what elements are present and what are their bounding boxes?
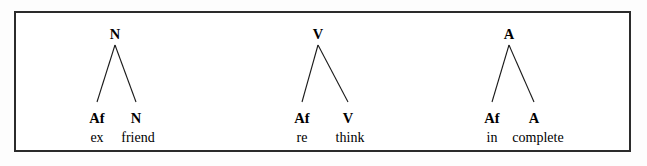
branch-right bbox=[509, 45, 534, 102]
branch-left bbox=[492, 45, 509, 102]
tree-adjective-left-word: in bbox=[487, 131, 498, 145]
tree-noun-right-category: N bbox=[131, 111, 142, 126]
tree-verb-root-label: V bbox=[313, 27, 324, 42]
figure-canvas: N Af ex N friend V Af re V think A Af bbox=[0, 0, 647, 166]
tree-noun-root-label: N bbox=[110, 27, 121, 42]
branch-right bbox=[115, 45, 136, 102]
branch-left bbox=[97, 45, 115, 102]
branch-left bbox=[302, 45, 318, 102]
tree-verb: V Af re V think bbox=[219, 13, 419, 154]
tree-adjective-right-category: A bbox=[529, 111, 540, 126]
tree-noun-right-word: friend bbox=[121, 131, 154, 145]
tree-adjective-right-word: complete bbox=[512, 131, 563, 145]
tree-verb-left-category: Af bbox=[294, 111, 310, 126]
tree-verb-left-word: re bbox=[297, 131, 308, 145]
diagram-frame: N Af ex N friend V Af re V think A Af bbox=[14, 11, 631, 152]
tree-adjective-root-label: A bbox=[504, 27, 515, 42]
tree-verb-right-category: V bbox=[343, 111, 354, 126]
tree-noun: N Af ex N friend bbox=[16, 13, 216, 154]
tree-adjective: A Af in A complete bbox=[412, 13, 612, 154]
tree-verb-right-word: think bbox=[336, 131, 365, 145]
tree-adjective-left-category: Af bbox=[484, 111, 500, 126]
tree-noun-left-category: Af bbox=[89, 111, 105, 126]
tree-noun-left-word: ex bbox=[90, 131, 103, 145]
branch-right bbox=[318, 45, 348, 102]
